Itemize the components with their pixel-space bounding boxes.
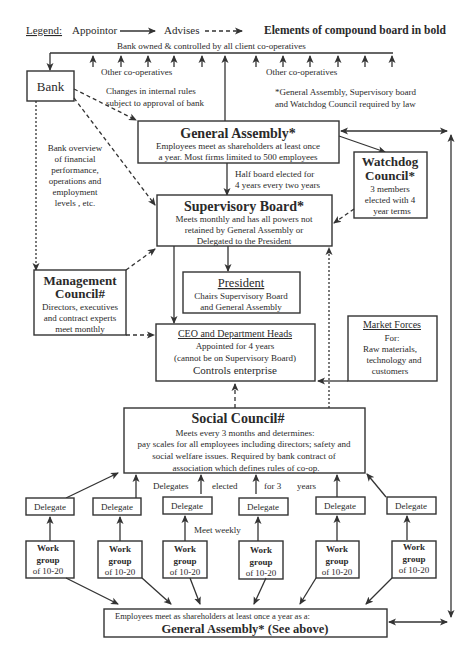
svg-text:Delegate: Delegate bbox=[101, 502, 133, 512]
general-assembly-title: General Assembly* bbox=[180, 126, 296, 141]
svg-text:of 10-20: of 10-20 bbox=[33, 566, 64, 576]
legend-appointor: Appointor bbox=[72, 24, 118, 36]
svg-text:group: group bbox=[174, 556, 197, 566]
svg-text:group: group bbox=[250, 557, 273, 567]
workgroup-to-assembly-arrows bbox=[66, 578, 392, 604]
svg-text:elected with 4: elected with 4 bbox=[365, 195, 416, 205]
svg-text:Raw materials,: Raw materials, bbox=[363, 344, 417, 354]
svg-text:pay scales for all employees i: pay scales for all employees including d… bbox=[138, 439, 351, 449]
svg-text:year terms: year terms bbox=[373, 206, 411, 216]
svg-text:Employees meet as shareholders: Employees meet as shareholders at least … bbox=[156, 141, 320, 151]
legend-label: Legend: bbox=[26, 24, 62, 36]
ceo-title: CEO and Department Heads bbox=[178, 328, 292, 339]
work-group-box: Work group of 10-20 bbox=[26, 541, 74, 578]
svg-text:group: group bbox=[37, 555, 60, 565]
work-group-box: Work group of 10-20 bbox=[163, 541, 207, 578]
ga-to-watchdog-arrow bbox=[339, 136, 385, 152]
svg-text:Work: Work bbox=[403, 542, 425, 552]
ceo-box: CEO and Department Heads Appointed for 4… bbox=[156, 324, 315, 381]
svg-text:Work: Work bbox=[109, 544, 131, 554]
svg-text:Directors, executives: Directors, executives bbox=[42, 302, 118, 312]
law-note-line1: *General Assembly, Supervisory board bbox=[275, 87, 416, 97]
market-forces-box: Market Forces For: Raw materials, techno… bbox=[348, 316, 437, 381]
delegates-elected-word3: for 3 bbox=[264, 481, 282, 491]
svg-text:Delegate: Delegate bbox=[395, 501, 427, 511]
watchdog-to-supervisory-advice bbox=[334, 209, 354, 223]
bank-title: Bank bbox=[37, 79, 65, 94]
svg-text:(cannot be on Supervisory Boar: (cannot be on Supervisory Board) bbox=[174, 353, 296, 363]
svg-text:customers: customers bbox=[372, 366, 409, 376]
svg-text:Bank overview: Bank overview bbox=[48, 143, 103, 153]
svg-text:group: group bbox=[403, 554, 426, 564]
svg-text:performance,: performance, bbox=[51, 165, 99, 175]
svg-text:3 members: 3 members bbox=[370, 184, 410, 194]
svg-text:of 10-20: of 10-20 bbox=[170, 567, 201, 577]
delegate-box: Delegate bbox=[239, 498, 288, 515]
cooperative-governance-diagram: Legend: Appointor Advises Elements of co… bbox=[0, 0, 475, 658]
watchdog-council-box: Watchdog Council* 3 members elected with… bbox=[354, 152, 427, 218]
bank-box: Bank bbox=[27, 71, 74, 101]
svg-text:Delegated to the President: Delegated to the President bbox=[197, 236, 292, 246]
svg-text:association which defines rule: association which defines rules of co-op… bbox=[173, 463, 320, 473]
svg-text:and contract experts: and contract experts bbox=[44, 313, 117, 323]
svg-text:Delegate: Delegate bbox=[247, 502, 279, 512]
svg-text:Work: Work bbox=[326, 544, 348, 554]
svg-text:and General Assembly: and General Assembly bbox=[200, 302, 282, 312]
svg-text:Meets every 3 months and det: Meets every 3 months and determines: bbox=[175, 428, 314, 438]
svg-text:a year. Most firms limited to: a year. Most firms limited to 500 employ… bbox=[159, 152, 318, 162]
supervisory-board-box: Supervisory Board* Meets monthly and has… bbox=[157, 195, 332, 246]
svg-text:retained by General Assembly o: retained by General Assembly or bbox=[185, 225, 303, 235]
management-to-supervisory-advice bbox=[126, 249, 155, 270]
svg-text:Delegate: Delegate bbox=[34, 502, 66, 512]
president-title: President bbox=[218, 276, 265, 290]
social-council-title: Social Council# bbox=[192, 411, 285, 426]
other-coops-left: Other co-operatives bbox=[101, 67, 173, 77]
delegate-box: Delegate bbox=[93, 498, 141, 515]
svg-text:group: group bbox=[109, 556, 132, 566]
bottom-general-assembly-box: Employees meet as shareholders at least … bbox=[104, 609, 387, 637]
market-forces-title: Market Forces bbox=[363, 319, 421, 330]
svg-text:Delegate: Delegate bbox=[171, 501, 203, 511]
svg-text:Appointed for 4 years: Appointed for 4 years bbox=[196, 341, 275, 351]
svg-text:levels , etc.: levels , etc. bbox=[55, 198, 95, 208]
svg-text:meet monthly: meet monthly bbox=[55, 324, 105, 334]
law-note-line2: and Watchdog Council required by law bbox=[275, 99, 416, 109]
svg-text:of 10-20: of 10-20 bbox=[322, 567, 353, 577]
work-group-boxes: Work group of 10-20 Work group of 10-20 … bbox=[26, 541, 436, 579]
general-assembly-box: General Assembly* Employees meet as shar… bbox=[138, 121, 339, 163]
svg-text:Delegate: Delegate bbox=[324, 501, 356, 511]
svg-text:Work: Work bbox=[174, 544, 196, 554]
social-council-box: Social Council# Meets every 3 months and… bbox=[124, 408, 365, 473]
svg-text:Work: Work bbox=[250, 545, 272, 555]
legend-bold-note: Elements of compound board in bold bbox=[264, 24, 446, 37]
changes-rules-line2: subject to approval of bank bbox=[106, 98, 204, 108]
bottom-assembly-title: General Assembly* (See above) bbox=[162, 622, 329, 636]
svg-text:Council#: Council# bbox=[55, 286, 105, 301]
work-group-box: Work group of 10-20 bbox=[98, 541, 142, 578]
delegates-elected-word4: years bbox=[297, 481, 316, 491]
svg-text:social welfare issues. Require: social welfare issues. Required by bank … bbox=[152, 451, 335, 461]
delegate-box: Delegate bbox=[163, 497, 212, 514]
work-group-box: Work group of 10-20 bbox=[392, 541, 436, 578]
work-group-box: Work group of 10-20 bbox=[316, 541, 359, 578]
delegates-elected-word1: Delegates bbox=[153, 481, 189, 491]
delegate-box: Delegate bbox=[26, 498, 74, 515]
work-group-box: Work group of 10-20 bbox=[239, 541, 283, 579]
svg-text:of 10-20: of 10-20 bbox=[246, 568, 277, 578]
svg-text:Chairs Supervisory Board: Chairs Supervisory Board bbox=[194, 291, 288, 301]
svg-text:employment: employment bbox=[53, 187, 98, 197]
svg-text:Council*: Council* bbox=[365, 168, 415, 183]
meet-weekly-label: Meet weekly bbox=[194, 525, 241, 535]
supervisory-board-title: Supervisory Board* bbox=[184, 199, 304, 214]
bank-overview-note: Bank overview of financial performance, … bbox=[48, 143, 103, 208]
delegate-box: Delegate bbox=[387, 497, 436, 514]
delegates-elected-word2: elected bbox=[212, 481, 238, 491]
bottom-assembly-line1: Employees meet as shareholders at least … bbox=[115, 611, 310, 621]
delegate-box: Delegate bbox=[316, 497, 365, 514]
management-council-box: Management Council# Directors, executive… bbox=[34, 270, 126, 335]
svg-text:of 10-20: of 10-20 bbox=[399, 565, 430, 575]
bank-owned-label: Bank owned & controlled by all client co… bbox=[117, 41, 306, 51]
svg-text:of financial: of financial bbox=[54, 154, 96, 164]
svg-text:technology and: technology and bbox=[366, 355, 422, 365]
legend: Legend: Appointor Advises Elements of co… bbox=[26, 24, 446, 37]
